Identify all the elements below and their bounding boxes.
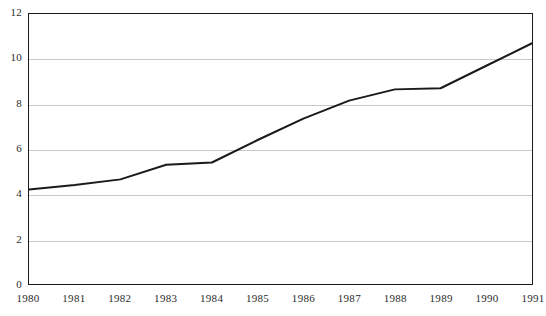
- x-tick-label-1982: 1982: [98, 292, 142, 304]
- line-chart: 024681012 198019811982198319841985198619…: [0, 0, 546, 316]
- x-tick-label-1983: 1983: [144, 292, 188, 304]
- x-tick-label-1987: 1987: [327, 292, 371, 304]
- x-tick-label-1981: 1981: [52, 292, 96, 304]
- x-tick-label-1984: 1984: [190, 292, 234, 304]
- x-tick-label-1988: 1988: [373, 292, 417, 304]
- x-tick-label-1985: 1985: [236, 292, 280, 304]
- x-tick-label-1991: 1991: [511, 292, 546, 304]
- x-tick-label-1986: 1986: [281, 292, 325, 304]
- x-axis-labels: 1980198119821983198419851986198719881989…: [0, 0, 546, 316]
- x-tick-label-1989: 1989: [419, 292, 463, 304]
- x-tick-label-1990: 1990: [465, 292, 509, 304]
- x-tick-label-1980: 1980: [6, 292, 50, 304]
